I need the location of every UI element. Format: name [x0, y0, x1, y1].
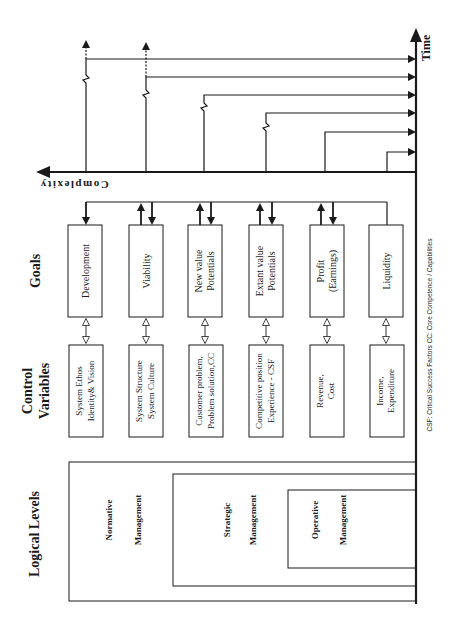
goal-label-line1: Profit: [315, 259, 326, 282]
management-model-diagram: Time Complexity: [0, 0, 456, 620]
control-label-line1: Income,: [375, 376, 385, 405]
control-label-line1: Revenue,: [315, 374, 325, 408]
goal-label-line1: Extant value: [254, 245, 265, 296]
level-strategic-management: Strategic Management: [173, 474, 416, 586]
goal-label-line1: New value: [193, 249, 204, 293]
level-label-line1: Strategic: [222, 503, 232, 537]
control-variables-row: System Ethos Identity& Vision System Str…: [69, 345, 404, 437]
goals-header: Goals: [28, 253, 43, 288]
goal-box-new-value-potentials: New value Potentials: [188, 225, 222, 317]
goal-feedback-bracket: [86, 202, 387, 225]
control-label-line1: System Ethos: [74, 366, 84, 416]
goal-label: Liquidity: [381, 252, 392, 289]
control-variables-header-line1: Control: [20, 368, 35, 415]
control-label-line2: Experience - CSF: [266, 359, 276, 423]
control-box-system-ethos: System Ethos Identity& Vision: [69, 345, 103, 437]
control-box-revenue-cost: Revenue, Cost: [310, 345, 344, 437]
complexity-axis-label: Complexity: [39, 179, 108, 191]
control-label-line2: Cost: [326, 382, 336, 399]
control-box-competitive-position: Competitive position Experience - CSF: [249, 345, 283, 437]
abbreviations-footnote: CSF: Critical Success Factors CC: Core C…: [426, 238, 434, 432]
control-label-line1: Customer problem,: [194, 356, 204, 426]
control-box-customer-problem: Customer problem, Problem solution,CC: [189, 345, 223, 437]
control-label-line2: Problem solution,CC: [206, 353, 216, 429]
control-label-line1: System Structure: [134, 360, 144, 422]
level-normative-management: Normative Management: [69, 462, 416, 601]
logical-levels: Normative Management Strategic Managemen…: [69, 462, 416, 601]
control-label-line2: System Culture: [146, 363, 156, 419]
goal-box-profit: Profit (Earnings): [310, 225, 344, 317]
control-label-line2: Expenditure: [386, 369, 396, 413]
level-label-line1: Normative: [104, 500, 114, 541]
goal-label-line2: Potentials: [266, 251, 277, 291]
time-axis-label: Time: [419, 34, 433, 61]
control-box-system-structure: System Structure System Culture: [129, 345, 163, 437]
goal-box-liquidity: Liquidity: [369, 225, 403, 317]
goal-control-links: [86, 319, 386, 343]
goal-label-line2: (Earnings): [327, 250, 339, 292]
goal-box-extant-value-potentials: Extant value Potentials: [249, 225, 283, 317]
goal-label: Development: [80, 244, 91, 298]
goal-label-line2: Potentials: [205, 251, 216, 291]
goal-box-viability: Viability: [129, 225, 163, 317]
level-label-line2: Management: [248, 495, 258, 546]
control-label-line2: Identity& Vision: [86, 360, 96, 421]
level-label-line2: Management: [338, 495, 348, 546]
level-operative-management: Operative Management: [288, 490, 416, 568]
control-variables-header-line2: Variables: [37, 362, 52, 419]
diagram-canvas: Time Complexity: [0, 0, 456, 620]
goal-label: Viability: [141, 254, 152, 289]
time-progression-arrows: [83, 42, 414, 172]
level-label-line2: Management: [133, 495, 143, 546]
level-label-line1: Operative: [310, 501, 320, 540]
logical-levels-header: Logical Levels: [27, 490, 42, 576]
control-box-income-expenditure: Income, Expenditure: [370, 345, 404, 437]
control-label-line1: Competitive position: [254, 353, 264, 429]
goals-row: Development Viability New value Potentia…: [68, 225, 403, 317]
goal-box-development: Development: [68, 225, 102, 317]
